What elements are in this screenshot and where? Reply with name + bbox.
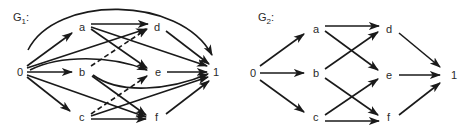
edge-d-1: [399, 33, 440, 67]
node-1: 1: [451, 69, 457, 81]
edge-0-1: [28, 9, 212, 55]
node-d: d: [154, 21, 160, 33]
edge-0-f: [27, 75, 146, 117]
graph-g2-title: G2:: [258, 11, 274, 26]
node-e: e: [386, 69, 392, 81]
node-d: d: [386, 23, 392, 35]
edge-0-d: [27, 29, 146, 68]
node-b: b: [79, 66, 85, 78]
edge-f-1: [399, 83, 440, 115]
edge-f-1: [166, 81, 209, 114]
graph-g1: G1: 0 a b c: [13, 9, 219, 123]
edge-b-1: [93, 74, 208, 88]
graph-g2: G2: 0 a b c d e f 1: [250, 11, 457, 123]
node-b: b: [313, 67, 319, 79]
graph-g2-edges: [260, 26, 440, 121]
graph-g1-title: G1:: [13, 11, 29, 26]
node-a: a: [79, 21, 86, 33]
node-c: c: [313, 111, 319, 123]
node-1: 1: [213, 66, 219, 78]
node-c: c: [79, 111, 85, 123]
edge-0-a: [260, 34, 304, 66]
node-0: 0: [17, 66, 23, 78]
node-e: e: [155, 66, 161, 78]
graph-g1-edges: [27, 9, 212, 119]
node-f: f: [155, 111, 159, 123]
node-f: f: [387, 111, 391, 123]
node-0: 0: [250, 67, 256, 79]
node-a: a: [313, 23, 320, 35]
diagram-canvas: G1: 0 a b c: [0, 0, 465, 130]
edge-0-c: [260, 80, 304, 112]
